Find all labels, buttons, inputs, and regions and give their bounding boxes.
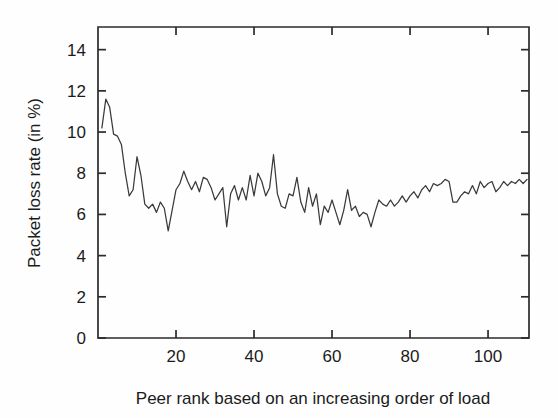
x-tick-label: 100 <box>474 347 502 366</box>
y-tick-label: 10 <box>67 123 86 142</box>
chart-canvas: 20406080100 02468101214 Peer rank based … <box>0 0 558 418</box>
y-tick-label: 12 <box>67 82 86 101</box>
y-tick-label: 6 <box>77 205 86 224</box>
y-tick-label: 2 <box>77 288 86 307</box>
x-tick-label: 40 <box>245 347 264 366</box>
y-tick-label: 14 <box>67 41 86 60</box>
packet-loss-chart: 20406080100 02468101214 Peer rank based … <box>0 0 558 418</box>
x-tick-label: 80 <box>401 347 420 366</box>
x-tick-label: 60 <box>323 347 342 366</box>
x-axis-title: Peer rank based on an increasing order o… <box>136 389 490 408</box>
y-tick-label: 0 <box>77 329 86 348</box>
y-tick-label: 4 <box>77 247 86 266</box>
y-axis-title: Packet loss rate (in %) <box>25 98 44 268</box>
y-tick-label: 8 <box>77 164 86 183</box>
x-tick-label: 20 <box>167 347 186 366</box>
